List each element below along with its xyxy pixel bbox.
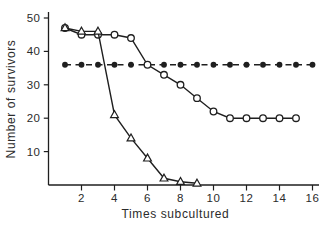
filled-circle-marker [244, 62, 250, 68]
x-tick-label: 2 [78, 192, 85, 204]
open-triangle-marker [94, 27, 102, 34]
filled-circle-marker [79, 62, 85, 68]
open-circle-marker [227, 115, 234, 122]
filled-circle-marker [211, 62, 217, 68]
y-tick-label: 10 [27, 146, 41, 158]
y-axis-label: Number of survivors [4, 19, 18, 179]
y-tick-label: 50 [27, 12, 41, 24]
open-circle-marker [243, 115, 250, 122]
open-circle-marker [260, 115, 267, 122]
x-tick-label: 10 [207, 192, 221, 204]
open-circle-marker [177, 82, 184, 89]
open-circle-marker [293, 115, 300, 122]
x-tick-label: 14 [273, 192, 287, 204]
x-tick-label: 16 [306, 192, 320, 204]
chart-canvas: 1020304050246810121416 [0, 0, 333, 229]
figure: 1020304050246810121416 Number of survivo… [0, 0, 333, 229]
open-circle-marker [194, 95, 201, 102]
x-tick-label: 8 [177, 192, 184, 204]
filled-circle-marker [194, 62, 200, 68]
open-triangle-marker [111, 111, 119, 118]
filled-circle-marker [95, 62, 101, 68]
open-triangle-solid-line [65, 28, 197, 183]
y-tick-label: 40 [27, 45, 41, 57]
x-tick-label: 12 [240, 192, 254, 204]
filled-circle-marker [293, 62, 299, 68]
y-tick-label: 30 [27, 79, 41, 91]
open-circle-marker [128, 35, 135, 42]
filled-circle-marker [260, 62, 266, 68]
x-tick-label: 6 [144, 192, 151, 204]
filled-circle-marker [112, 62, 118, 68]
open-circle-marker [161, 71, 168, 78]
filled-circle-marker [310, 62, 316, 68]
open-circle-marker [210, 108, 217, 115]
open-circle-marker [144, 61, 151, 68]
filled-circle-marker [161, 62, 167, 68]
filled-circle-marker [277, 62, 283, 68]
open-circle-marker [111, 31, 118, 38]
filled-circle-marker [128, 62, 134, 68]
y-tick-label: 20 [27, 112, 41, 124]
open-circle-marker [276, 115, 283, 122]
x-tick-label: 4 [111, 192, 118, 204]
filled-circle-marker [227, 62, 233, 68]
filled-circle-marker [178, 62, 184, 68]
x-axis-label: Times subcultured [49, 207, 302, 221]
filled-circle-marker [62, 62, 68, 68]
